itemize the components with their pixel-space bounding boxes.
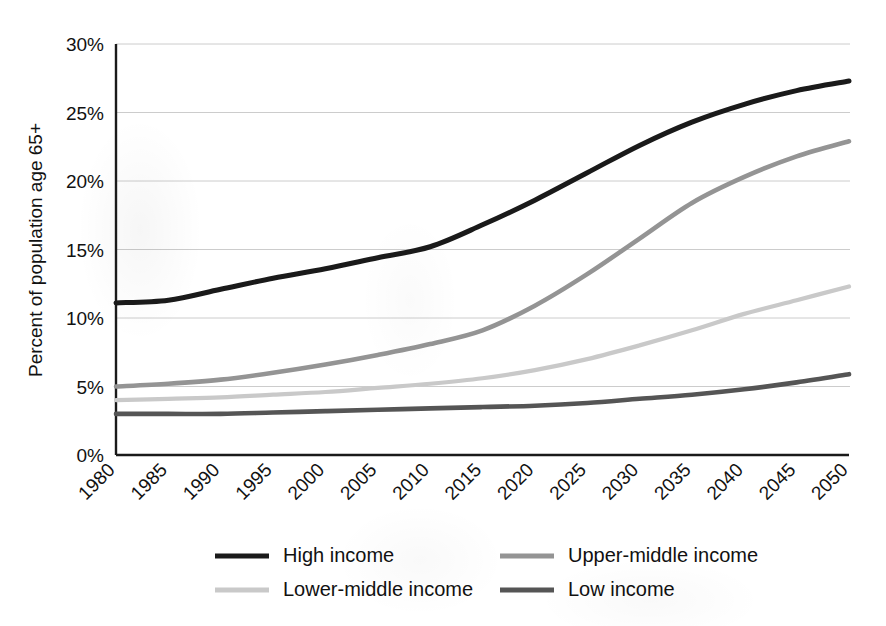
y-axis-tick-label: 25% xyxy=(66,103,104,124)
x-axis-tick-label: 2000 xyxy=(284,459,329,504)
x-axis-tick-label: 1995 xyxy=(231,459,276,504)
y-axis-tick-label: 30% xyxy=(66,34,104,55)
chart-legend: High incomeUpper-middle incomeLower-midd… xyxy=(215,544,758,600)
x-axis-tick-label: 2005 xyxy=(336,459,381,504)
legend-label: High income xyxy=(283,544,394,566)
legend-item[interactable]: High income xyxy=(215,544,394,566)
legend-item[interactable]: Low income xyxy=(500,578,675,600)
x-axis-tick-label: 2050 xyxy=(807,459,852,504)
x-axis-tick-label: 1990 xyxy=(179,459,224,504)
series-line xyxy=(116,81,849,303)
x-axis-tick-label: 2040 xyxy=(702,459,747,504)
x-axis-tick-label: 2010 xyxy=(388,459,433,504)
y-axis-tick-label: 5% xyxy=(77,377,105,398)
legend-label: Lower-middle income xyxy=(283,578,473,600)
legend-label: Upper-middle income xyxy=(568,544,758,566)
y-axis-tick-label: 20% xyxy=(66,171,104,192)
y-axis-tick-label: 15% xyxy=(66,240,104,261)
x-axis-tick-label: 1985 xyxy=(126,459,171,504)
x-axis-tick-label: 2030 xyxy=(598,459,643,504)
x-axis-tick-labels: 1980198519901995200020052010201520202025… xyxy=(74,459,852,504)
gridlines xyxy=(116,44,850,387)
x-axis-tick-label: 2025 xyxy=(545,459,590,504)
y-axis-tick-label: 10% xyxy=(66,308,104,329)
x-axis-tick-label: 2015 xyxy=(441,459,486,504)
x-axis-tick-label: 2035 xyxy=(650,459,695,504)
legend-item[interactable]: Lower-middle income xyxy=(215,578,473,600)
legend-item[interactable]: Upper-middle income xyxy=(500,544,758,566)
y-axis-title: Percent of population age 65+ xyxy=(25,123,46,377)
y-axis-tick-labels: 0%5%10%15%20%25%30% xyxy=(66,34,104,466)
x-axis-tick-label: 2045 xyxy=(755,459,800,504)
x-axis-tick-label: 2020 xyxy=(493,459,538,504)
series-line xyxy=(116,141,849,386)
legend-label: Low income xyxy=(568,578,675,600)
line-chart: 0%5%10%15%20%25%30% 19801985199019952000… xyxy=(0,0,886,626)
series-lines xyxy=(116,81,849,414)
series-line xyxy=(116,286,849,400)
chart-page: 0%5%10%15%20%25%30% 19801985199019952000… xyxy=(0,0,886,626)
